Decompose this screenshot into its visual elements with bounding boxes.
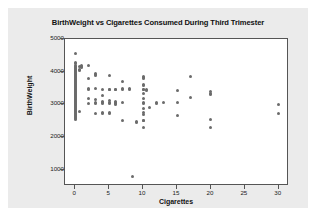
scatter-point [189,75,192,78]
scatter-point [189,96,192,99]
scatter-point [108,102,111,105]
scatter-point [142,102,145,105]
scatter-point [176,101,179,104]
scatter-point [142,126,145,129]
x-tick-label: 0 [62,189,86,196]
y-tick-mark [60,71,64,72]
x-axis-title: Cigarettes [64,198,288,205]
scatter-point [101,112,104,115]
scatter-point [142,84,145,87]
scatter-point [80,66,83,69]
scatter-point [108,88,111,91]
scatter-point [108,74,111,77]
scatter-point [94,112,97,115]
scatter-point [128,88,131,91]
scatter-point [101,102,104,105]
x-tick-mark [108,185,109,189]
x-tick-label: 10 [130,189,154,196]
scatter-point [87,102,90,105]
scatter-point [74,52,77,55]
scatter-point [155,102,158,105]
scatter-point [277,112,280,115]
scatter-point [108,112,111,115]
scatter-point [101,94,104,97]
y-tick-mark [60,103,64,104]
scatter-point [277,103,280,106]
scatter-point [94,87,97,90]
y-tick-mark [60,169,64,170]
scatter-point [142,107,145,110]
scatter-point [142,119,145,122]
x-tick-mark [142,185,143,189]
x-tick-mark [176,185,177,189]
scatter-point [87,64,90,67]
scatter-point [142,113,145,116]
y-tick-mark [60,38,64,39]
scatter-point [87,97,90,100]
x-tick-label: 20 [198,189,222,196]
x-tick-mark [244,185,245,189]
scatter-point [74,118,77,121]
x-tick-label: 30 [266,189,290,196]
scatter-point [162,101,165,104]
scatter-point [94,74,97,77]
scatter-point [209,118,212,121]
scatter-point [78,110,81,113]
x-tick-mark [74,185,75,189]
scatter-point [135,121,138,124]
scatter-point [176,114,179,117]
scatter-point [101,88,104,91]
scatter-point [114,88,117,91]
x-tick-label: 25 [232,189,256,196]
scatter-point [87,77,90,80]
y-axis-ticks: 10002000300040005000 [28,0,64,222]
scatter-point [145,89,148,92]
plot-area [64,38,288,185]
scatter-point [142,77,145,80]
scatter-point [142,92,145,95]
scatter-point [142,97,145,100]
scatter-point [121,101,124,104]
scatter-point [209,126,212,129]
scatter-point [209,93,212,96]
scatter-point [176,89,179,92]
scatter-point [121,80,124,83]
x-tick-label: 5 [96,189,120,196]
y-tick-mark [60,136,64,137]
x-tick-mark [278,185,279,189]
x-tick-mark [210,185,211,189]
scatter-point [121,119,124,122]
scatter-point [114,103,117,106]
scatter-point [94,102,97,105]
scatter-point [87,88,90,91]
scatter-point [131,175,134,178]
x-tick-label: 15 [164,189,188,196]
chart-figure: BirthWeight vs Cigarettes Consumed Durin… [0,0,316,222]
scatter-point [148,106,151,109]
scatter-point [121,88,124,91]
